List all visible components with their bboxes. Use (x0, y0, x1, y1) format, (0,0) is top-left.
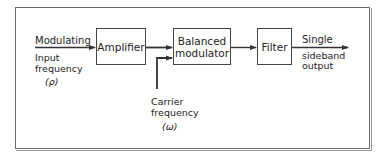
carrier-arrow (157, 58, 172, 89)
balanced-modulator-block: Balanced modulator (173, 28, 231, 65)
input-label-modulating: Modulating (35, 35, 91, 47)
output-label-output: output (302, 60, 333, 72)
filter-block: Filter (257, 28, 292, 65)
output-label-single: Single (302, 34, 333, 46)
amplifier-label: Amplifier (97, 41, 144, 53)
carrier-symbol-omega: (ω) (162, 121, 177, 133)
amplifier-block: Amplifier (96, 28, 146, 65)
input-symbol-rho: (ρ) (45, 76, 58, 88)
filter-label: Filter (261, 41, 287, 53)
balanced-modulator-label-line2: modulator (175, 47, 229, 59)
input-label-frequency: frequency (35, 63, 83, 75)
carrier-label-frequency: frequency (151, 107, 199, 119)
balanced-modulator-label-line1: Balanced (178, 35, 227, 47)
